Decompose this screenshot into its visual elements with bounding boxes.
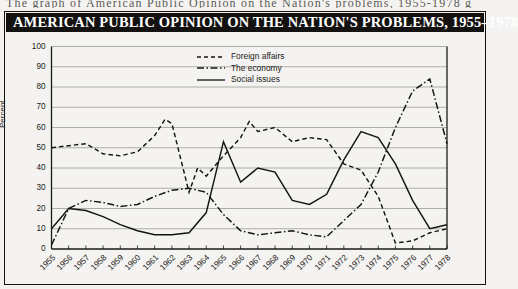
legend-key-solid [196,75,226,85]
y-tick-label-20: 20 [22,204,46,213]
legend-key-dash-dot [196,63,226,73]
legend-label-social-issues: Social issues [231,74,280,86]
chart-legend: Foreign affairs The economy Social issue… [196,51,284,86]
y-tick-label-50: 50 [22,143,46,152]
y-tick-label-10: 10 [22,224,46,233]
y-tick-label-0: 0 [22,244,46,253]
y-tick-label-90: 90 [22,62,46,71]
y-axis-label: Percent [0,100,7,128]
legend-label-the-economy: The economy [231,63,282,75]
y-tick-label-60: 60 [22,123,46,132]
y-tick-label-100: 100 [22,42,46,51]
legend-item-social-issues: Social issues [196,74,284,86]
legend-item-foreign-affairs: Foreign affairs [196,51,284,63]
legend-label-foreign-affairs: Foreign affairs [231,51,284,63]
y-tick-label-40: 40 [22,163,46,172]
legend-key-dashed [196,52,226,62]
y-tick-label-80: 80 [22,82,46,91]
y-tick-label-70: 70 [22,102,46,111]
y-tick-label-30: 30 [22,183,46,192]
legend-item-the-economy: The economy [196,63,284,75]
series-foreign-affairs [52,119,448,243]
